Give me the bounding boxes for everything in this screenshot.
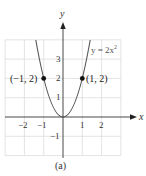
point-left-label: (−1, 2) <box>10 73 37 85</box>
x-tick-label: 2 <box>99 120 104 130</box>
point-right <box>80 76 85 81</box>
y-axis-arrow-icon <box>60 22 65 29</box>
y-axis-label: y <box>59 8 65 19</box>
equation-prefix: y = 2x <box>91 45 115 55</box>
x-tick-label: −2 <box>18 120 28 130</box>
point-left <box>41 76 46 81</box>
parabola-chart: x y −2 −1 1 2 −1 1 2 3 (−1, 2) (1, 2) y … <box>0 0 146 176</box>
y-tick-label: 3 <box>56 54 61 64</box>
y-tick-label: 2 <box>56 73 61 83</box>
point-right-label: (1, 2) <box>86 73 108 85</box>
y-tick-label: 1 <box>56 92 61 102</box>
x-axis-arrow-icon <box>130 114 137 119</box>
equation-label: y = 2x2 <box>91 44 117 55</box>
y-tick-label: −1 <box>50 131 60 141</box>
figure-caption: (a) <box>55 160 66 172</box>
x-axis-label: x <box>138 111 144 122</box>
x-tick-label: −1 <box>37 120 47 130</box>
equation-exponent: 2 <box>114 44 117 50</box>
x-tick-label: 1 <box>80 120 85 130</box>
